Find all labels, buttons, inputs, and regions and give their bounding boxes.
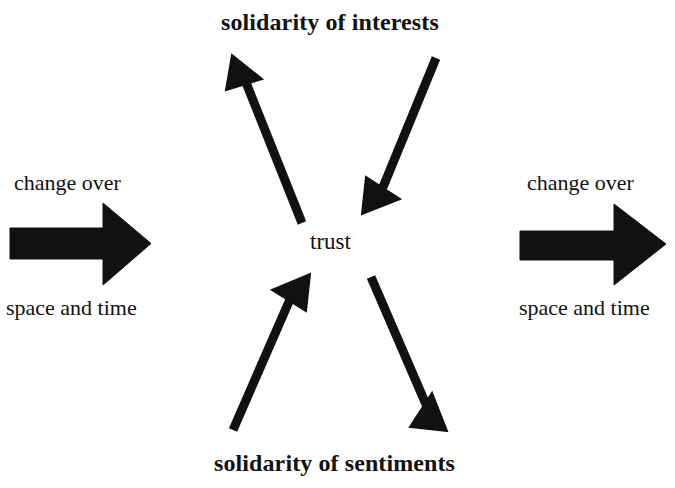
left-block-arrow — [10, 203, 151, 285]
connector-sentiments-to-trust — [233, 274, 310, 430]
left-block-arrow-shape — [10, 203, 151, 285]
connector-trust-to-interests — [226, 55, 302, 223]
connector-interests-to-trust — [362, 58, 436, 214]
node-label-trust: trust — [310, 230, 351, 253]
diagram-canvas: solidarity of interests trust solidarity… — [0, 0, 675, 488]
connector-interests-to-trust-shaft — [381, 58, 436, 192]
connector-trust-to-interests-head — [226, 55, 262, 90]
right-block-arrow-shape — [520, 204, 666, 285]
connector-trust-to-sentiments-shaft — [371, 277, 428, 409]
connector-trust-to-interests-shaft — [243, 75, 302, 223]
left-caption-change-over: change over — [14, 172, 121, 194]
connector-trust-to-sentiments-head — [410, 393, 447, 431]
right-caption-change-over: change over — [527, 172, 634, 194]
node-label-solidarity-of-sentiments: solidarity of sentiments — [214, 451, 455, 475]
right-caption-space-and-time: space and time — [519, 297, 650, 319]
left-caption-space-and-time: space and time — [6, 297, 137, 319]
connector-trust-to-sentiments — [371, 277, 447, 431]
right-block-arrow — [520, 204, 666, 285]
connector-sentiments-to-trust-shaft — [233, 297, 291, 430]
node-label-solidarity-of-interests: solidarity of interests — [221, 10, 439, 34]
